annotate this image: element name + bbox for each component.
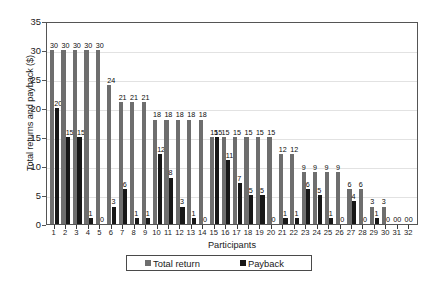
bar-total-return[interactable]: [244, 137, 248, 224]
bar-group[interactable]: 188: [164, 23, 175, 224]
x-axis-tick-label: 32: [401, 229, 415, 237]
bar-payback[interactable]: [215, 137, 219, 224]
bar-group[interactable]: 64: [347, 23, 358, 224]
bar-payback[interactable]: [146, 218, 150, 224]
bar-group[interactable]: 31: [370, 23, 381, 224]
bar-group[interactable]: 00: [393, 23, 404, 224]
bar-value-label-total-return: 18: [153, 111, 161, 118]
bar-value-label-payback: 1: [374, 210, 378, 217]
bar-total-return[interactable]: [73, 50, 77, 224]
bar-group[interactable]: 95: [313, 23, 324, 224]
bar-value-label-payback: 6: [306, 181, 310, 188]
bar-payback[interactable]: [77, 137, 81, 224]
bar-total-return[interactable]: [130, 102, 134, 224]
bar-group[interactable]: 211: [142, 23, 153, 224]
bar-payback[interactable]: [226, 160, 230, 224]
y-axis-tick-label: 25: [11, 75, 41, 84]
bar-total-return[interactable]: [119, 102, 123, 224]
bar-total-return[interactable]: [313, 172, 317, 224]
bar-group[interactable]: 121: [290, 23, 301, 224]
bar-group[interactable]: 211: [130, 23, 141, 224]
bar-total-return[interactable]: [153, 120, 157, 224]
bar-value-label-payback: 1: [294, 210, 298, 217]
bar-group[interactable]: 60: [359, 23, 370, 224]
bar-group[interactable]: 301: [84, 23, 95, 224]
bar-group[interactable]: 121: [279, 23, 290, 224]
bar-value-label-total-return: 15: [256, 129, 264, 136]
bar-value-label-total-return: 21: [119, 94, 127, 101]
bar-group[interactable]: 155: [256, 23, 267, 224]
bar-payback[interactable]: [352, 201, 356, 224]
bar-group[interactable]: 180: [199, 23, 210, 224]
y-axis-tick-label: 20: [11, 104, 41, 113]
bar-payback[interactable]: [158, 154, 162, 224]
bar-payback[interactable]: [123, 189, 127, 224]
bar-payback[interactable]: [180, 207, 184, 224]
bar-value-label-payback: 5: [249, 187, 253, 194]
bar-group[interactable]: 243: [107, 23, 118, 224]
bar-group[interactable]: 3020: [50, 23, 61, 224]
bar-group[interactable]: 150: [267, 23, 278, 224]
bar-payback[interactable]: [375, 218, 379, 224]
bar-payback[interactable]: [135, 218, 139, 224]
bar-value-label-total-return: 24: [107, 77, 115, 84]
bar-group[interactable]: 30: [382, 23, 393, 224]
bar-payback[interactable]: [260, 195, 264, 224]
bar-group[interactable]: 96: [302, 23, 313, 224]
bar-payback[interactable]: [306, 189, 310, 224]
bar-group[interactable]: 90: [336, 23, 347, 224]
y-axis-tick-label: 5: [11, 191, 41, 200]
bar-total-return[interactable]: [256, 137, 260, 224]
bar-payback[interactable]: [192, 218, 196, 224]
bar-group[interactable]: 183: [176, 23, 187, 224]
y-axis-tick-label: 10: [11, 162, 41, 171]
bar-group[interactable]: 00: [405, 23, 416, 224]
bar-total-return[interactable]: [267, 137, 271, 224]
bar-payback[interactable]: [283, 218, 287, 224]
chart-legend: Total return Payback: [126, 255, 312, 271]
bar-total-return[interactable]: [142, 102, 146, 224]
bar-total-return[interactable]: [199, 120, 203, 224]
bar-group[interactable]: 216: [119, 23, 130, 224]
bar-payback[interactable]: [318, 195, 322, 224]
bar-value-label-payback: 3: [111, 198, 115, 205]
bar-value-label-total-return: 15: [267, 129, 275, 136]
bar-value-label-total-return: 6: [359, 181, 363, 188]
bar-payback[interactable]: [169, 178, 173, 224]
bar-group[interactable]: 1812: [153, 23, 164, 224]
bar-group[interactable]: 157: [233, 23, 244, 224]
bar-payback[interactable]: [238, 183, 242, 224]
bar-payback[interactable]: [329, 218, 333, 224]
bar-payback[interactable]: [66, 137, 70, 224]
bar-group[interactable]: 181: [187, 23, 198, 224]
bar-value-label-total-return: 6: [347, 181, 351, 188]
bar-value-label-total-return: 30: [50, 42, 58, 49]
bar-total-return[interactable]: [210, 137, 214, 224]
bar-value-label-payback: 6: [123, 181, 127, 188]
bar-group[interactable]: 91: [325, 23, 336, 224]
bar-payback[interactable]: [89, 218, 93, 224]
bar-value-label-total-return: 3: [382, 198, 386, 205]
bar-total-return[interactable]: [96, 50, 100, 224]
bar-group[interactable]: 155: [244, 23, 255, 224]
bar-chart-figure: Total returns and payback ($) 0510152025…: [0, 0, 433, 286]
bar-value-label-total-return: 12: [290, 146, 298, 153]
legend-item-total-return[interactable]: Total return: [145, 258, 200, 269]
legend-item-payback[interactable]: Payback: [240, 258, 284, 269]
bar-total-return[interactable]: [50, 50, 54, 224]
bar-group[interactable]: 1515: [210, 23, 221, 224]
bar-payback[interactable]: [112, 207, 116, 224]
bar-payback[interactable]: [295, 218, 299, 224]
bar-payback[interactable]: [55, 108, 59, 224]
bar-value-label-total-return: 21: [130, 94, 138, 101]
bar-group[interactable]: 300: [96, 23, 107, 224]
y-axis-tick-label: 35: [11, 17, 41, 26]
bar-total-return[interactable]: [176, 120, 180, 224]
bar-group[interactable]: 3015: [73, 23, 84, 224]
bar-payback[interactable]: [249, 195, 253, 224]
bar-group[interactable]: 3015: [61, 23, 72, 224]
bar-total-return[interactable]: [61, 50, 65, 224]
bar-total-return[interactable]: [84, 50, 88, 224]
bar-group[interactable]: 1511: [222, 23, 233, 224]
bar-value-label-total-return: 21: [142, 94, 150, 101]
